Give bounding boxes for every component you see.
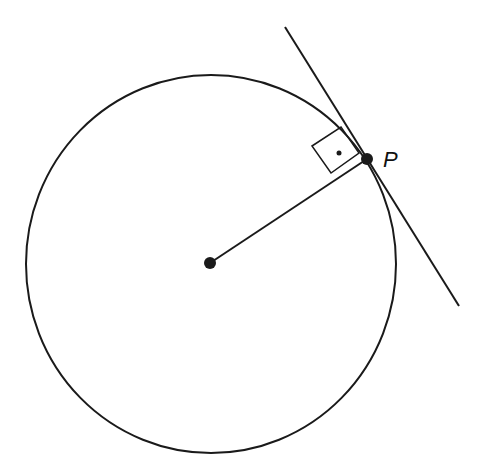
point-p-label: P — [383, 147, 398, 173]
tangent-line — [285, 27, 459, 306]
diagram-canvas: P — [0, 0, 488, 472]
right-angle-dot — [337, 151, 342, 156]
point-p — [361, 153, 373, 165]
center-point — [204, 257, 216, 269]
circle-tangent-diagram — [0, 0, 488, 472]
radius-segment — [210, 159, 367, 263]
